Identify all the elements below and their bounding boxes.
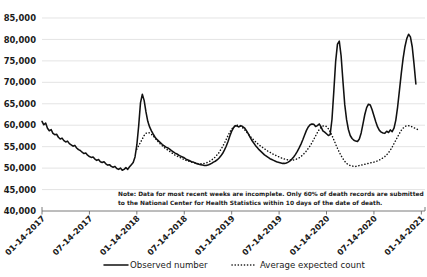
x-axis-tick-label: 01-14-2021 <box>382 213 426 257</box>
data-series <box>42 34 420 170</box>
x-axis-tick-label: 07-14-2019 <box>240 213 284 257</box>
annotation-line-2: to the National Center for Health Statis… <box>118 200 382 207</box>
legend-label-average-expected-count: Average expected count <box>260 260 365 270</box>
x-axis-tick-label: 01-14-2020 <box>287 213 331 257</box>
x-axis-tick-label: 01-14-2018 <box>98 213 142 257</box>
x-axis-tick-label: 07-14-2017 <box>50 213 94 257</box>
annotation-line-1: Note: Data for most recent weeks are inc… <box>118 191 424 198</box>
y-axis-tick-label: 70,000 <box>4 77 36 87</box>
y-axis-tick-label: 75,000 <box>4 56 36 66</box>
y-axis-tick-label: 80,000 <box>4 35 36 45</box>
series-observed-number <box>42 34 416 170</box>
y-axis-tick-label: 85,000 <box>4 13 36 23</box>
series-average-expected-count <box>137 125 420 166</box>
chart-legend: Observed numberAverage expected count <box>104 260 365 270</box>
y-axis-tick-label: 60,000 <box>4 120 36 130</box>
x-axis-tick-label: 07-14-2018 <box>145 213 189 257</box>
y-axis-tick-labels: 40,00045,00050,00055,00060,00065,00070,0… <box>4 13 36 216</box>
y-axis-tick-label: 45,000 <box>4 185 36 195</box>
x-axis-tick-label: 07-14-2020 <box>335 213 379 257</box>
x-axis-tick-labels: 01-14-201707-14-201701-14-201807-14-2018… <box>3 213 427 257</box>
chart-annotation-note: Note: Data for most recent weeks are inc… <box>118 191 424 207</box>
chart-container: 40,00045,00050,00055,00060,00065,00070,0… <box>0 0 427 277</box>
x-axis <box>42 207 425 215</box>
weekly-deaths-line-chart: 40,00045,00050,00055,00060,00065,00070,0… <box>0 0 427 277</box>
y-axis-tick-label: 50,000 <box>4 163 36 173</box>
legend-label-observed-number: Observed number <box>130 260 208 270</box>
x-axis-tick-label: 01-14-2019 <box>192 213 236 257</box>
y-axis-tick-label: 65,000 <box>4 99 36 109</box>
y-axis-tick-label: 55,000 <box>4 142 36 152</box>
x-axis-tick-label: 01-14-2017 <box>3 213 47 257</box>
y-axis-tick-label: 40,000 <box>4 206 36 216</box>
